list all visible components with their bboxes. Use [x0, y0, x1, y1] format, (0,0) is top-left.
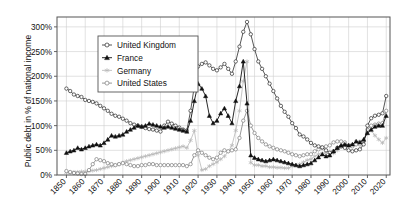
data-point: [373, 114, 376, 117]
data-point: [339, 140, 342, 143]
x-axis-tick-label: 2020: [368, 177, 388, 197]
data-point: [211, 158, 214, 161]
x-axis-tick-label: 1970: [274, 177, 294, 197]
data-point: [290, 121, 293, 124]
data-point: [189, 162, 192, 165]
data-point: [268, 82, 271, 85]
y-axis-tick-label: 250%: [31, 48, 52, 57]
x-axis-tick-label: 1880: [105, 177, 125, 197]
data-point: [106, 161, 109, 164]
data-point: [369, 117, 372, 120]
x-axis-tick-label: 1980: [293, 177, 313, 197]
data-point: [298, 155, 301, 158]
x-axis-tick-label: 1950: [237, 177, 257, 197]
data-point: [234, 60, 237, 63]
data-point: [125, 162, 128, 165]
data-point: [65, 169, 68, 172]
data-point: [366, 124, 369, 127]
x-axis-tick-label: 1890: [124, 177, 144, 197]
x-axis-tick-label: 1870: [86, 177, 106, 197]
x-axis-tick-label: 1910: [161, 177, 181, 197]
data-point: [208, 156, 211, 159]
data-point: [125, 119, 128, 122]
data-point: [306, 153, 309, 156]
data-point: [351, 150, 354, 153]
data-point: [249, 153, 253, 157]
data-point: [245, 109, 248, 112]
legend-label: United States: [117, 78, 167, 88]
data-point: [253, 47, 256, 50]
data-point: [132, 164, 135, 167]
data-point: [114, 114, 117, 117]
data-point: [264, 143, 267, 146]
data-point: [215, 156, 218, 159]
data-point: [76, 94, 79, 97]
data-point: [317, 145, 320, 148]
data-point: [196, 153, 200, 157]
data-point: [385, 109, 388, 112]
data-point: [147, 122, 151, 126]
data-point: [192, 128, 196, 132]
data-point: [230, 121, 234, 125]
data-point: [117, 162, 120, 165]
data-point: [95, 102, 98, 105]
data-point: [369, 124, 372, 127]
data-point: [204, 94, 208, 98]
data-point: [91, 162, 94, 165]
data-point: [294, 126, 297, 129]
data-point: [241, 59, 245, 63]
data-point: [84, 98, 87, 101]
data-point: [287, 115, 290, 118]
data-point: [226, 114, 230, 118]
data-point: [136, 164, 139, 167]
data-point: [275, 148, 278, 151]
data-point: [302, 135, 305, 138]
data-point: [309, 153, 312, 156]
data-point: [377, 113, 380, 116]
data-point: [313, 144, 316, 147]
legend-marker: [105, 43, 109, 47]
x-axis: 1850186018701880189019001910192019301940…: [49, 175, 388, 196]
data-point: [95, 158, 98, 161]
y-axis-tick-label: 200%: [31, 72, 52, 81]
data-point: [272, 146, 275, 149]
y-axis-tick-label: 150%: [31, 97, 52, 106]
data-point: [230, 72, 233, 75]
data-point: [223, 62, 226, 65]
data-point: [114, 163, 117, 166]
data-point: [260, 67, 263, 70]
data-point: [237, 109, 241, 113]
data-point: [189, 109, 192, 112]
data-point: [147, 162, 150, 165]
data-point: [166, 163, 169, 166]
data-point: [196, 149, 199, 152]
data-point: [354, 149, 357, 152]
data-point: [181, 163, 184, 166]
data-point: [257, 60, 260, 63]
data-point: [110, 112, 113, 115]
data-point: [230, 143, 234, 147]
data-point: [102, 159, 105, 162]
data-point: [129, 121, 132, 124]
data-point: [159, 130, 162, 133]
legend-marker: [105, 81, 109, 85]
data-point: [279, 104, 282, 107]
x-axis-tick-label: 1940: [218, 177, 238, 197]
data-point: [211, 162, 215, 166]
data-point: [309, 141, 312, 144]
data-point: [336, 140, 339, 143]
data-point: [223, 149, 226, 152]
x-axis-tick-label: 2000: [331, 177, 351, 197]
data-point: [166, 125, 170, 129]
data-point: [200, 151, 203, 154]
data-point: [245, 59, 249, 63]
data-point: [219, 151, 222, 154]
data-point: [219, 66, 222, 69]
data-point: [275, 97, 278, 100]
chart-figure: Public debt in % of national income 0%50…: [0, 0, 409, 220]
x-axis-tick-label: 1930: [199, 177, 219, 197]
data-point: [271, 157, 275, 161]
data-point: [155, 163, 158, 166]
data-point: [358, 148, 361, 151]
data-point: [249, 124, 252, 127]
